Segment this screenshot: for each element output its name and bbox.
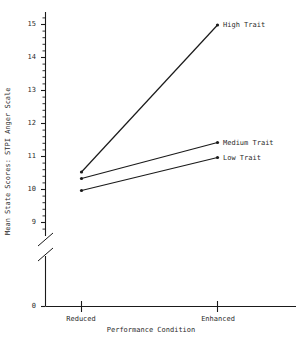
chart-figure: 15 14 13 12 11 10 9 0 Reduced Enhanced H… <box>0 0 302 337</box>
y-tick-label-13: 13 <box>16 87 36 94</box>
series-line-high-trait <box>82 25 218 172</box>
y-axis-title: Mean State Scores: STPI Anger Scale <box>5 87 12 235</box>
y-tick-label-10: 10 <box>16 186 36 193</box>
y-tick-label-14: 14 <box>16 54 36 61</box>
y-tick-label-11: 11 <box>16 153 36 160</box>
x-axis-title: Performance Condition <box>107 327 196 334</box>
y-tick-label-9: 9 <box>16 219 36 226</box>
y-axis-major-ticks <box>41 25 46 223</box>
y-tick-label-12: 12 <box>16 120 36 127</box>
x-tick-label-reduced: Reduced <box>66 316 96 323</box>
chart-plot-area <box>0 0 302 337</box>
series-line-medium-trait <box>82 143 218 179</box>
y-tick-label-15: 15 <box>16 21 36 28</box>
series-line-low-trait <box>82 158 218 191</box>
y-tick-label-0: 0 <box>16 303 36 310</box>
series-label-medium-trait: Medium Trait <box>223 140 274 147</box>
series-label-low-trait: Low Trait <box>223 155 261 162</box>
series-label-high-trait: High Trait <box>223 22 265 29</box>
x-tick-label-enhanced: Enhanced <box>201 316 235 323</box>
data-point-markers <box>80 23 219 192</box>
